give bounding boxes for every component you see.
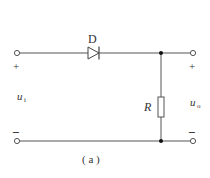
input-terminal-top: [14, 50, 19, 55]
output-voltage-label: u o: [190, 96, 201, 110]
input-voltage-label: u i: [17, 90, 26, 104]
input-minus-sign: −: [12, 125, 19, 140]
output-plus-sign: +: [189, 60, 195, 72]
circuit-diagram: D R + + − − u i u o ( a ): [0, 0, 210, 178]
output-minus-sign: −: [188, 125, 195, 140]
svg-text:i: i: [24, 96, 26, 104]
diode-label: D: [88, 32, 97, 46]
junction-dot-top: [159, 51, 163, 55]
diode-symbol: [88, 47, 99, 60]
figure-caption: ( a ): [82, 153, 100, 166]
svg-text:o: o: [197, 102, 201, 110]
svg-text:u: u: [190, 96, 196, 108]
resistor-symbol: [158, 97, 164, 117]
output-terminal-top: [190, 50, 195, 55]
junction-dot-bottom: [159, 139, 163, 143]
input-plus-sign: +: [13, 60, 19, 72]
resistor-label: R: [143, 100, 152, 114]
svg-text:u: u: [17, 90, 23, 102]
